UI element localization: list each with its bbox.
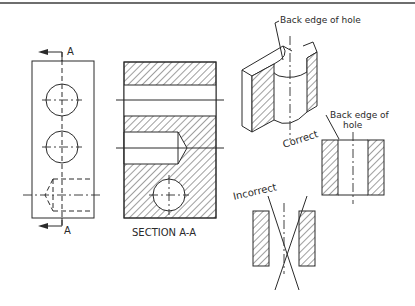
incorrect-title: Incorrect <box>232 181 278 202</box>
iso-leader-label: Back edge of hole <box>280 15 361 25</box>
incorrect-hatch-right <box>299 211 315 266</box>
arrow-bottom-icon <box>38 223 48 229</box>
correct-hatch-right <box>368 140 384 195</box>
arrow-top-icon <box>38 49 48 55</box>
iso-leader-line <box>275 21 283 60</box>
incorrect-hatch-left <box>253 211 269 266</box>
correct-view: Back edge of hole Correct <box>281 110 389 204</box>
front-view: A A <box>23 46 101 236</box>
front-view-outline <box>32 61 94 218</box>
section-caption: SECTION A-A <box>132 227 196 238</box>
iso-hatched-face-right <box>307 52 317 112</box>
incorrect-cross-line-1 <box>268 196 299 290</box>
iso-hatched-face-left <box>252 64 274 132</box>
correct-leader-label-1: Back edge of <box>330 110 390 120</box>
section-drawing-figure: A A SECTION <box>0 0 415 306</box>
correct-hatch-left <box>322 140 338 195</box>
section-view: SECTION A-A <box>116 62 224 238</box>
correct-leader-label-2: hole <box>343 120 363 130</box>
section-label-top: A <box>67 46 74 57</box>
incorrect-view: Incorrect <box>232 181 315 290</box>
section-label-bottom: A <box>64 225 71 236</box>
correct-title: Correct <box>281 128 319 150</box>
